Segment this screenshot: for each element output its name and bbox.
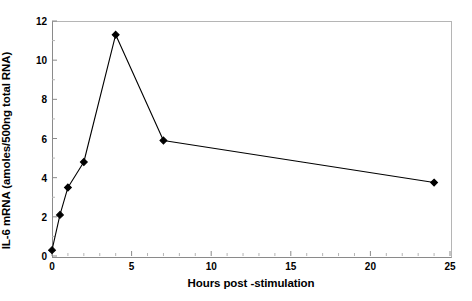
y-tick-label: 0 [26, 251, 47, 262]
y-tick-label: 12 [26, 16, 47, 27]
x-tick-label: 25 [430, 261, 470, 272]
x-tick-label: 20 [350, 261, 390, 272]
y-axis-title: IL-6 mRNA (amoles/500ng total RNA) [0, 0, 26, 301]
x-tick-label: 10 [191, 261, 231, 272]
y-tick-label: 8 [26, 94, 47, 105]
x-axis-title: Hours post -stimulation [52, 277, 450, 289]
x-tick-label: 5 [112, 261, 152, 272]
x-tick-label: 0 [32, 261, 72, 272]
y-tick-label: 10 [26, 55, 47, 66]
y-tick-label: 4 [26, 172, 47, 183]
y-tick-label: 2 [26, 211, 47, 222]
x-tick-label: 15 [271, 261, 311, 272]
plot-area [52, 21, 452, 258]
chart-figure: IL-6 mRNA (amoles/500ng total RNA) 02468… [0, 0, 472, 301]
y-tick-label: 6 [26, 133, 47, 144]
